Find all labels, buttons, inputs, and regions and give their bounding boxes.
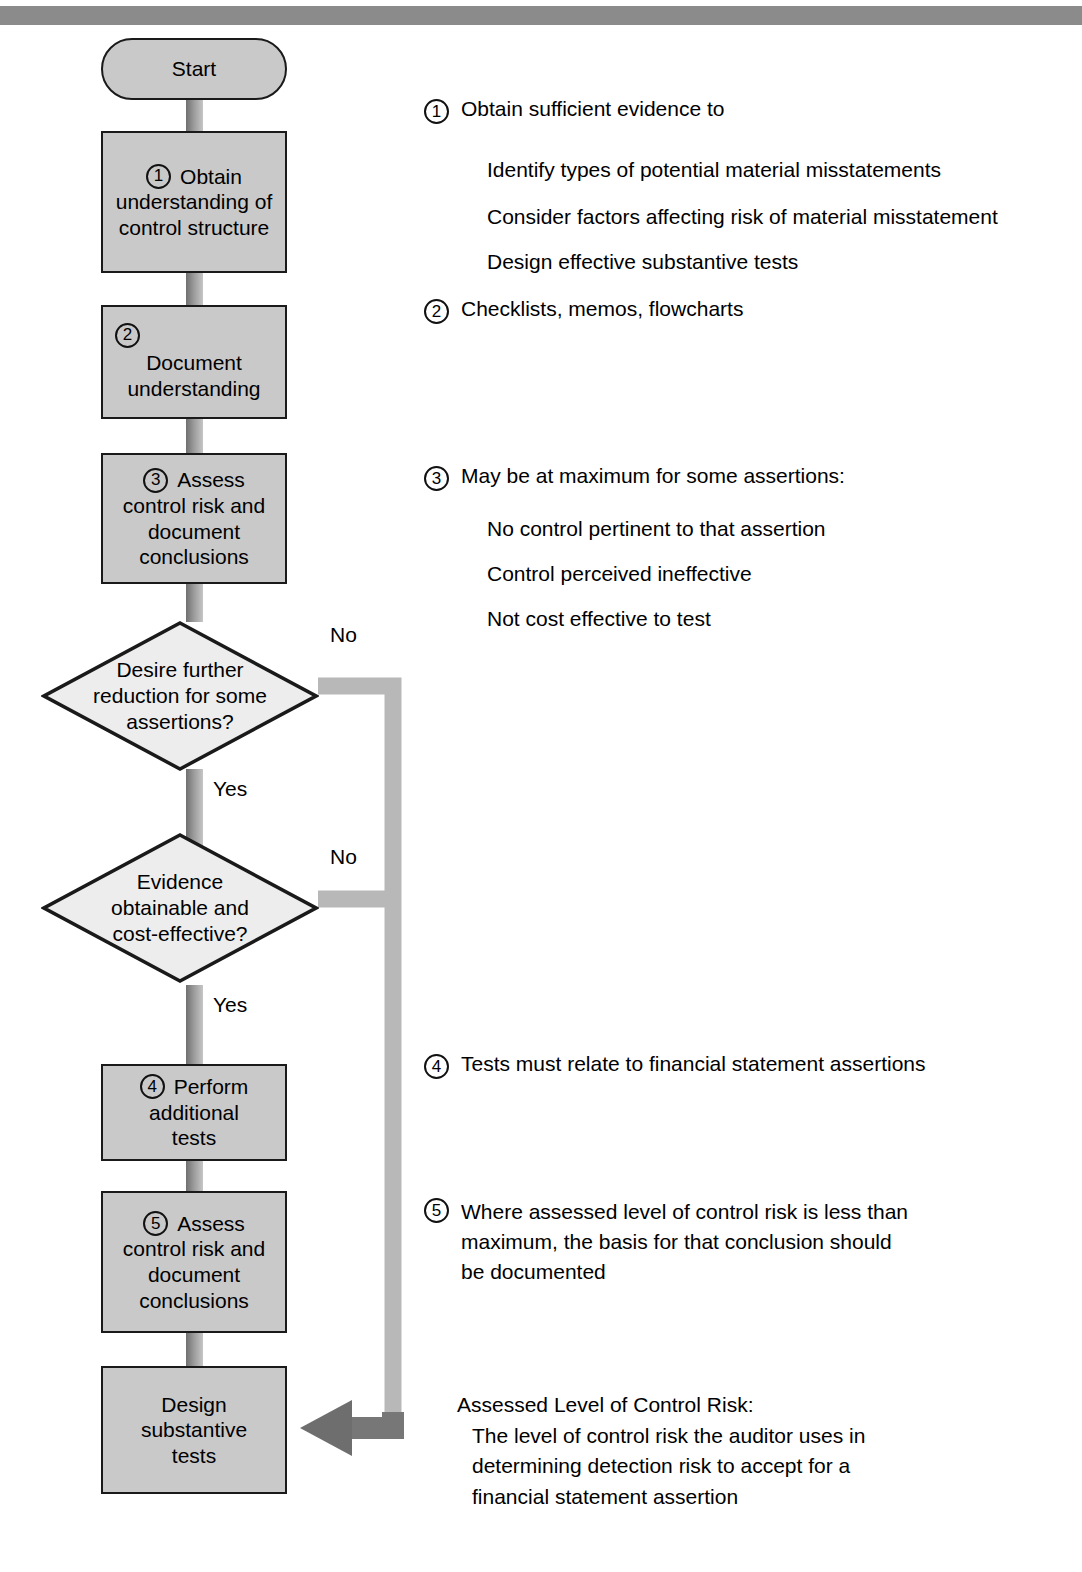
- flow-node-step5-label-line1: Assess: [177, 1211, 245, 1237]
- annotation-2-body: Checklists, memos, flowcharts: [461, 298, 743, 319]
- annotation-badge-2: 2: [424, 299, 449, 324]
- flow-node-decision2[interactable]: Evidence obtainable and cost-effective?: [41, 832, 319, 984]
- flow-node-step4-label-line1: Perform: [174, 1074, 249, 1100]
- step-badge-5: 5: [143, 1211, 168, 1236]
- flow-node-step1-label-rest: understanding of control structure: [110, 189, 278, 240]
- definition-body: The level of control risk the auditor us…: [472, 1421, 1032, 1512]
- flow-node-step5[interactable]: 5 Assess control risk and document concl…: [101, 1191, 287, 1333]
- annotation-1-head: Obtain sufficient evidence to: [461, 98, 724, 119]
- flow-node-step3-label-line1: Assess: [177, 467, 245, 493]
- annotation-3-sub-2: Not cost effective to test: [487, 607, 711, 631]
- branch-label-decision1-no: No: [330, 623, 357, 647]
- connector-step4-to-step5: [186, 1160, 203, 1191]
- flow-node-step1-label-line1: Obtain: [180, 164, 242, 190]
- flow-node-step2[interactable]: 2 Document understanding: [101, 305, 287, 419]
- annotation-badge-5: 5: [424, 1198, 449, 1223]
- flow-node-start[interactable]: Start: [101, 38, 287, 100]
- connector-decision1-no-branch: [318, 686, 393, 1420]
- flow-node-step1-firstline: 1 Obtain: [146, 164, 242, 190]
- annotation-3-sub-1: Control perceived ineffective: [487, 562, 752, 586]
- connector-step3-to-decision1: [186, 583, 203, 622]
- connector-step1-to-step2: [186, 272, 203, 305]
- flow-node-final-label: Design substantive tests: [135, 1392, 253, 1469]
- annotation-1-sub-0: Identify types of potential material mis…: [487, 158, 941, 182]
- step-badge-2: 2: [115, 323, 140, 348]
- flow-node-step5-firstline: 5 Assess: [143, 1211, 245, 1237]
- connector-start-to-step1: [186, 99, 203, 132]
- flow-node-step4-firstline: 4 Perform: [140, 1074, 249, 1100]
- flow-node-step2-label-rest: Document understanding: [121, 350, 266, 401]
- flow-node-step4[interactable]: 4 Perform additional tests: [101, 1064, 287, 1161]
- connector-decision2-to-step4: [186, 985, 203, 1065]
- flow-node-final[interactable]: Design substantive tests: [101, 1366, 287, 1494]
- flow-node-step3-label-rest: control risk and document conclusions: [117, 493, 271, 570]
- annotation-3-body: May be at maximum for some assertions:: [461, 465, 845, 486]
- flow-node-step3-firstline: 3 Assess: [143, 467, 245, 493]
- annotation-2-head: Checklists, memos, flowcharts: [461, 298, 743, 319]
- annotation-3: 3 May be at maximum for some assertions:: [424, 465, 1034, 491]
- flow-node-decision2-label: Evidence obtainable and cost-effective?: [41, 832, 319, 984]
- annotation-badge-4: 4: [424, 1054, 449, 1079]
- annotation-3-head: May be at maximum for some assertions:: [461, 465, 845, 486]
- annotation-1: 1 Obtain sufficient evidence to: [424, 98, 1034, 124]
- annotation-1-body: Obtain sufficient evidence to: [461, 98, 724, 119]
- loop-arrowhead-icon: [300, 1400, 352, 1456]
- flow-node-decision1-label: Desire further reduction for some assert…: [41, 620, 319, 772]
- flow-node-step3[interactable]: 3 Assess control risk and document concl…: [101, 453, 287, 584]
- annotation-4-head: Tests must relate to financial statement…: [461, 1053, 926, 1074]
- branch-label-decision2-no: No: [330, 845, 357, 869]
- connector-loop-bottom: [345, 1412, 393, 1428]
- step-badge-1: 1: [146, 164, 171, 189]
- flow-node-start-label: Start: [166, 56, 222, 82]
- annotation-5-body: Where assessed level of control risk is …: [461, 1197, 908, 1286]
- annotation-5-head: Where assessed level of control risk is …: [461, 1197, 908, 1286]
- flow-node-step4-label-rest: additional tests: [143, 1100, 245, 1151]
- connector-step5-to-final: [186, 1332, 203, 1367]
- branch-label-decision2-yes: Yes: [213, 993, 247, 1017]
- definition-term: Assessed Level of Control Risk:: [457, 1393, 753, 1417]
- flow-node-step2-firstline: 2: [115, 323, 149, 348]
- annotation-5: 5 Where assessed level of control risk i…: [424, 1197, 1034, 1286]
- connector-step2-to-step3: [186, 418, 203, 453]
- annotation-badge-3: 3: [424, 466, 449, 491]
- annotation-4-body: Tests must relate to financial statement…: [461, 1053, 926, 1074]
- annotation-3-sub-0: No control pertinent to that assertion: [487, 517, 826, 541]
- annotation-badge-1: 1: [424, 99, 449, 124]
- flow-node-step1[interactable]: 1 Obtain understanding of control struct…: [101, 131, 287, 273]
- page-top-rule: [0, 6, 1082, 25]
- annotation-1-sub-1: Consider factors affecting risk of mater…: [487, 205, 998, 229]
- flow-node-step5-label-rest: control risk and document conclusions: [117, 1236, 271, 1313]
- annotation-2: 2 Checklists, memos, flowcharts: [424, 298, 1034, 324]
- flow-node-decision1[interactable]: Desire further reduction for some assert…: [41, 620, 319, 772]
- step-badge-4: 4: [140, 1074, 165, 1099]
- annotation-1-sub-2: Design effective substantive tests: [487, 250, 798, 274]
- branch-label-decision1-yes: Yes: [213, 777, 247, 801]
- annotation-4: 4 Tests must relate to financial stateme…: [424, 1053, 1034, 1079]
- step-badge-3: 3: [143, 468, 168, 493]
